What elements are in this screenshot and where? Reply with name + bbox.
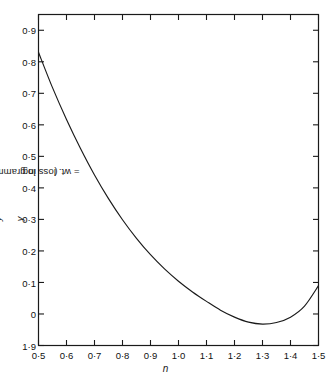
x-axis-title: n bbox=[0, 363, 331, 374]
x-axis-tick-label: 1·1 bbox=[200, 350, 214, 361]
x-axis-tick-label: 1·5 bbox=[312, 350, 326, 361]
x-axis-tick-label: 0·6 bbox=[60, 350, 74, 361]
figure-container: log y ( y = wt. loss in grammes) 0·90·80… bbox=[0, 0, 331, 389]
x-axis-tick-label: 0·8 bbox=[116, 350, 130, 361]
x-axis-tick-label: 1·0 bbox=[172, 350, 186, 361]
x-axis-tick-label: 0·7 bbox=[88, 350, 102, 361]
x-axis-tick-label: 0·5 bbox=[32, 350, 46, 361]
x-axis-tick-label: 1·2 bbox=[228, 350, 242, 361]
x-axis-tick-label: 1·4 bbox=[284, 350, 298, 361]
x-axis-tick-label: 1·3 bbox=[256, 350, 270, 361]
x-axis-tick-labels: 0·50·60·70·80·91·01·11·21·31·41·5 bbox=[0, 0, 331, 389]
x-axis-tick-label: 0·9 bbox=[144, 350, 158, 361]
